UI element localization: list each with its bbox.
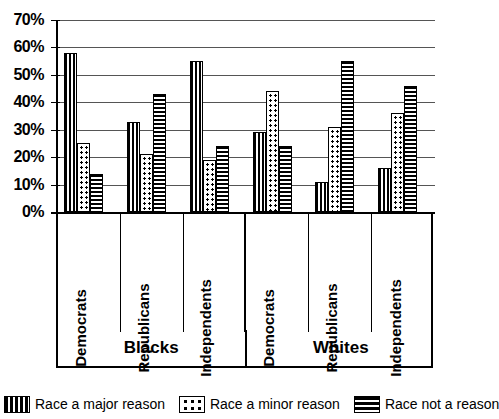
category-cell: Republicans (309, 214, 372, 332)
bar (64, 53, 77, 212)
category-cell: Independents (184, 214, 247, 332)
bar (216, 146, 229, 212)
category-cell: Democrats (247, 214, 310, 332)
category-cell: Republicans (121, 214, 184, 332)
panel-label-text: Blacks (124, 338, 179, 358)
bar (378, 168, 391, 212)
y-axis-tick-label: 30% (13, 121, 44, 139)
panel-label-blacks: Blacks (58, 330, 247, 366)
category-cell: Democrats (58, 214, 121, 332)
bar (315, 182, 328, 212)
legend-item: Race not a reason (354, 396, 499, 413)
panel-label-whites: Whites (247, 330, 436, 366)
panel-label-text: Whites (313, 338, 369, 358)
bar (404, 86, 417, 212)
category-cell: Independents (372, 214, 435, 332)
bar-group (378, 20, 417, 212)
category-axis: DemocratsRepublicansIndependentsDemocrat… (56, 212, 433, 330)
bar-group (315, 20, 354, 212)
y-axis-tick-label: 60% (13, 38, 44, 56)
bar (140, 154, 153, 212)
y-axis-tick-label: 10% (13, 176, 44, 194)
legend-label: Race not a reason (385, 396, 499, 412)
y-axis-tick-label: 50% (13, 66, 44, 84)
y-axis-tick-label: 70% (13, 11, 44, 29)
bar (253, 132, 266, 212)
panel-axis: BlacksWhites (56, 330, 433, 368)
legend-item: Race a minor reason (179, 396, 340, 413)
bar-group (190, 20, 229, 212)
bar (203, 160, 216, 212)
bar-group (64, 20, 103, 212)
legend-swatch-minor-icon (179, 396, 205, 413)
bar (266, 91, 279, 212)
legend-label: Race a major reason (35, 396, 165, 412)
legend-item: Race a major reason (4, 396, 165, 413)
legend-swatch-none-icon (354, 396, 380, 413)
y-axis-tick-label: 0% (22, 203, 44, 221)
y-axis-tick-label: 20% (13, 148, 44, 166)
bar-group (127, 20, 166, 212)
legend-label: Race a minor reason (210, 396, 340, 412)
bar-groups (56, 20, 433, 212)
bar-group (253, 20, 292, 212)
bar (127, 122, 140, 213)
bar (391, 113, 404, 212)
bar (341, 61, 354, 212)
bar (190, 61, 203, 212)
chart-legend: Race a major reasonRace a minor reasonRa… (4, 392, 432, 416)
y-axis-tick-label: 40% (13, 93, 44, 111)
y-axis: 70%60%50%40%30%20%10%0% (0, 12, 46, 218)
legend-swatch-major-icon (4, 396, 30, 413)
bar (328, 127, 341, 212)
bar (90, 174, 103, 212)
bar (153, 94, 166, 212)
bar (279, 146, 292, 212)
bar (77, 143, 90, 212)
